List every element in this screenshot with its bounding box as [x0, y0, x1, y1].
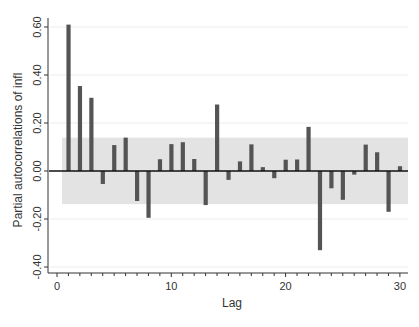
y-tick-label: 0.20	[31, 112, 43, 133]
pacf-bar	[146, 171, 150, 218]
x-tick-label: 0	[54, 280, 60, 292]
pacf-bar	[295, 159, 299, 171]
pacf-bar	[226, 171, 230, 180]
pacf-bar	[181, 142, 185, 171]
pacf-bar	[192, 159, 196, 171]
y-tick-label: 0.60	[31, 16, 43, 37]
pacf-bar	[66, 25, 70, 171]
y-tick-label: -0.20	[31, 206, 43, 231]
pacf-bar	[89, 98, 93, 171]
pacf-bar	[306, 127, 310, 171]
pacf-bar	[204, 171, 208, 205]
y-tick-label: 0.40	[31, 64, 43, 85]
pacf-bar	[341, 171, 345, 200]
pacf-bar	[375, 152, 379, 171]
pacf-bar	[272, 171, 276, 178]
x-tick-label: 30	[394, 280, 406, 292]
y-axis-title: Partial autocorrelations of infl	[11, 73, 25, 228]
pacf-chart: 0.600.400.200.00-0.20-0.400102030 Lag Pa…	[0, 0, 419, 327]
pacf-bar	[78, 86, 82, 171]
x-tick-label: 20	[279, 280, 291, 292]
pacf-bar	[169, 144, 173, 171]
pacf-bar	[364, 145, 368, 171]
pacf-bar	[215, 105, 219, 171]
y-tick-label: -0.40	[31, 254, 43, 279]
x-axis-title: Lag	[222, 296, 242, 310]
pacf-bar	[158, 159, 162, 171]
x-tick-label: 10	[165, 280, 177, 292]
pacf-bar	[329, 171, 333, 188]
pacf-bar	[249, 144, 253, 171]
pacf-bar	[386, 171, 390, 212]
pacf-bar	[284, 160, 288, 171]
bars	[66, 25, 402, 251]
pacf-bar	[318, 171, 322, 250]
pacf-bar	[135, 171, 139, 201]
y-tick-label: 0.00	[31, 160, 43, 181]
pacf-bar	[101, 171, 105, 184]
pacf-bar	[238, 161, 242, 171]
pacf-bar	[112, 145, 116, 171]
pacf-bar	[124, 138, 128, 171]
